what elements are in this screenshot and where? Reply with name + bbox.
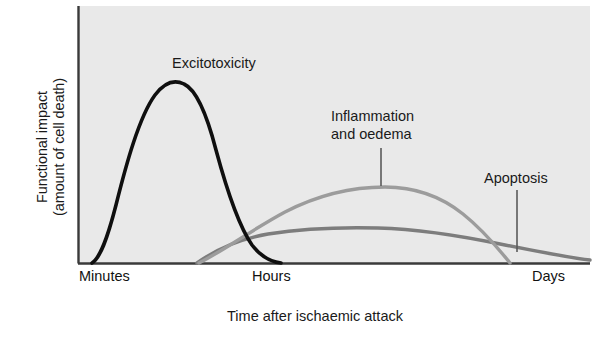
x-tick-label-minutes: Minutes — [79, 268, 130, 284]
chart-figure: Functional impact(amount of cell death) … — [0, 0, 616, 348]
annotation-apoptosis: Apoptosis — [484, 170, 548, 188]
x-tick-label-hours: Hours — [252, 268, 291, 284]
annotation-inflammation-line2: and oedema — [331, 126, 412, 142]
y-axis-title: Functional impact(amount of cell death) — [34, 32, 68, 262]
annotation-inflammation: Inflammationand oedema — [331, 108, 414, 143]
x-tick-label-days: Days — [532, 268, 565, 284]
x-axis-title: Time after ischaemic attack — [160, 308, 470, 324]
annotation-excitotoxicity: Excitotoxicity — [172, 55, 256, 73]
y-axis-title-line2: (amount of cell death) — [51, 78, 67, 216]
y-axis-title-line1: Functional impact — [34, 91, 50, 203]
annotation-inflammation-line1: Inflammation — [331, 108, 414, 124]
